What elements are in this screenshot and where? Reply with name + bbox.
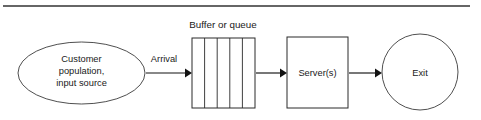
- server-to-exit-arrow-head: [375, 69, 382, 78]
- figure-canvas: Customer population, input source Arriva…: [0, 0, 481, 120]
- queue-to-server-edge: [256, 69, 287, 78]
- customer-population-line-3: input source: [56, 78, 107, 88]
- buffer-outer-rect: [192, 38, 255, 108]
- arrival-edge: [146, 69, 192, 78]
- server-to-exit-edge: [349, 69, 382, 78]
- queueing-system-diagram: Customer population, input source Arriva…: [0, 0, 481, 120]
- server-label: Server(s): [298, 68, 336, 78]
- customer-population-line-1: Customer: [61, 54, 101, 64]
- customer-population-line-2: population,: [59, 66, 105, 76]
- arrival-arrow-head: [185, 69, 192, 78]
- queue-to-server-arrow-head: [280, 69, 287, 78]
- buffer-or-queue-caption: Buffer or queue: [189, 19, 257, 30]
- buffer-queue-box: [192, 38, 255, 108]
- arrival-label: Arrival: [151, 54, 177, 64]
- exit-label: Exit: [412, 68, 428, 78]
